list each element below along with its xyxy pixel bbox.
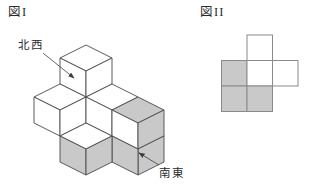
grid-cell-r3-c2-shaded bbox=[247, 86, 273, 112]
diagram-canvas: 図I 北西 南東 図II bbox=[0, 0, 311, 195]
figure1: 図I 北西 南東 bbox=[8, 5, 184, 179]
grid-cell-r2-c2-white bbox=[247, 61, 273, 87]
figure2-title: 図II bbox=[200, 5, 224, 19]
figure1-title: 図I bbox=[8, 5, 27, 19]
plan-view-grid bbox=[222, 35, 299, 112]
southeast-label: 南東 bbox=[159, 166, 184, 179]
grid-cell-r2-c1-shaded bbox=[222, 61, 248, 87]
northwest-label: 北西 bbox=[18, 39, 43, 51]
grid-cell-r1-c2-white bbox=[247, 35, 273, 61]
grid-cell-r3-c1-shaded bbox=[222, 86, 248, 112]
diagram-page: 図I 北西 南東 図II bbox=[0, 0, 311, 195]
grid-cell-r2-c3-white bbox=[273, 61, 299, 87]
figure2: 図II bbox=[200, 5, 298, 112]
cube-solid bbox=[34, 45, 164, 175]
